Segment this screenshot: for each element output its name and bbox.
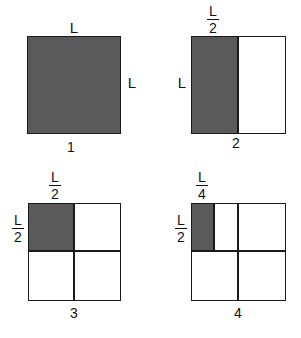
panel-number-2: 2 bbox=[226, 136, 246, 150]
shaded-region-2 bbox=[192, 37, 238, 133]
top-label-3: L 2 bbox=[49, 170, 61, 201]
panel-number-3: 3 bbox=[64, 306, 84, 320]
top-label-2-numerator: L bbox=[209, 4, 217, 18]
side-label-1: L bbox=[124, 75, 140, 90]
panel-number-1: 1 bbox=[61, 140, 81, 154]
side-label-3-denominator: 2 bbox=[14, 230, 22, 244]
top-label-4-numerator: L bbox=[198, 170, 206, 184]
side-label-3: L 2 bbox=[12, 213, 24, 244]
top-label-2-denominator: 2 bbox=[209, 21, 217, 35]
side-label-2: L bbox=[174, 75, 190, 90]
top-label-1: L bbox=[64, 20, 84, 35]
top-label-3-denominator: 2 bbox=[51, 187, 59, 201]
divider-3-horizontal bbox=[28, 250, 121, 252]
top-label-4-denominator: 4 bbox=[198, 187, 206, 201]
divider-3-vertical bbox=[73, 203, 75, 301]
side-label-3-numerator: L bbox=[14, 213, 22, 227]
divider-4-horizontal bbox=[191, 250, 286, 252]
side-label-4-numerator: L bbox=[177, 213, 185, 227]
shaded-region-4 bbox=[192, 204, 214, 251]
panel-number-4: 4 bbox=[228, 306, 248, 320]
side-label-4: L 2 bbox=[175, 213, 187, 244]
divider-4-vertical bbox=[237, 203, 239, 301]
divider-2-vertical bbox=[237, 36, 239, 134]
top-label-2: L 2 bbox=[207, 4, 219, 35]
divider-4-quarter bbox=[213, 203, 215, 251]
shaded-region-3 bbox=[29, 204, 74, 251]
top-label-4: L 4 bbox=[196, 170, 208, 201]
top-label-3-numerator: L bbox=[51, 170, 59, 184]
shaded-region-1 bbox=[28, 37, 120, 133]
side-label-4-denominator: 2 bbox=[177, 230, 185, 244]
